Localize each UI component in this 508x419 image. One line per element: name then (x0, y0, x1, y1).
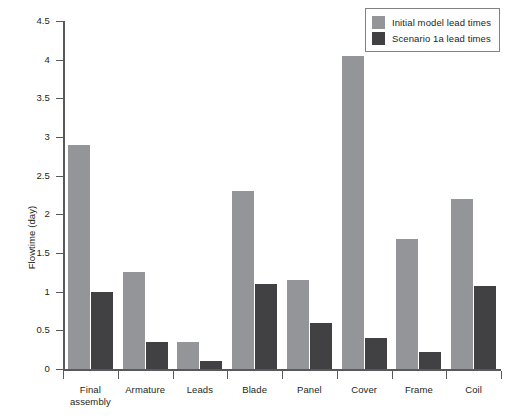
y-axis-tick-label: 1.5 (24, 248, 50, 258)
x-axis-tick-mark (446, 371, 447, 379)
y-axis-tick-label: 1 (24, 287, 50, 297)
bar-1-4 (310, 323, 332, 369)
y-axis-tick-label: 0 (24, 364, 50, 374)
bar-0-6 (396, 239, 418, 369)
bar-1-3 (255, 284, 277, 369)
x-axis-tick-mark (392, 371, 393, 379)
bar-0-4 (287, 280, 309, 369)
x-axis-tick-mark (63, 371, 64, 379)
x-axis-tick-label: Cover (337, 384, 392, 396)
x-axis-tick-label: Frame (392, 384, 447, 396)
bar-1-5 (365, 338, 387, 369)
x-axis-tick-label: Leads (173, 384, 228, 396)
x-axis-tick-mark (118, 371, 119, 379)
bar-0-3 (232, 191, 254, 369)
y-axis-tick-label: 4 (24, 55, 50, 65)
y-axis-tick-label: 3 (24, 132, 50, 142)
bar-1-7 (474, 286, 496, 369)
bar-chart: Flowtime (day) 00.511.522.533.544.5 Fina… (0, 0, 508, 419)
x-axis-tick-mark (501, 371, 502, 379)
y-axis-tick-label: 3.5 (24, 93, 50, 103)
y-axis-tick-label: 2 (24, 209, 50, 219)
bar-1-1 (146, 342, 168, 369)
x-axis-tick-mark (173, 371, 174, 379)
x-axis-tick-mark (227, 371, 228, 379)
y-axis-title: Flowtime (day) (26, 183, 37, 293)
plot-area (63, 21, 501, 369)
bar-0-5 (342, 56, 364, 369)
legend-swatch-icon (372, 16, 385, 29)
x-axis-tick-label: Armature (118, 384, 173, 396)
legend-item-label: Initial model lead times (392, 17, 491, 28)
y-axis-tick-label: 2.5 (24, 171, 50, 181)
x-axis-tick-label: Blade (227, 384, 282, 396)
bar-0-1 (123, 272, 145, 369)
x-axis-tick-label: Final assembly (63, 384, 118, 407)
x-axis-tick-mark (282, 371, 283, 379)
bar-1-2 (200, 361, 222, 369)
x-axis-tick-mark (337, 371, 338, 379)
legend-item: Initial model lead times (372, 14, 491, 30)
bar-1-6 (419, 352, 441, 369)
legend-item: Scenario 1a lead times (372, 30, 491, 46)
chart-legend: Initial model lead timesScenario 1a lead… (365, 8, 500, 52)
y-axis-tick-label: 0.5 (24, 325, 50, 335)
bar-0-7 (451, 199, 473, 369)
y-axis-tick-label: 4.5 (24, 16, 50, 26)
legend-swatch-icon (372, 32, 385, 45)
bar-0-0 (68, 145, 90, 369)
x-axis-tick-label: Panel (282, 384, 337, 396)
x-axis-tick-label: Coil (446, 384, 501, 396)
bar-0-2 (177, 342, 199, 369)
bar-1-0 (91, 292, 113, 369)
legend-item-label: Scenario 1a lead times (392, 33, 491, 44)
